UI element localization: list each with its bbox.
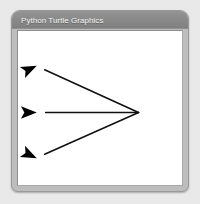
turtle-top-line (45, 70, 139, 113)
turtle-bottom-arrowhead (20, 146, 40, 164)
turtle-arrowheads (20, 60, 40, 164)
turtle-path-lines (45, 70, 139, 154)
turtle-top-arrowhead (20, 60, 40, 78)
window-title-bar[interactable]: Python Turtle Graphics (12, 11, 188, 29)
turtle-bottom-line (45, 112, 139, 154)
turtle-canvas-area[interactable] (17, 30, 183, 186)
window-title-label: Python Turtle Graphics (21, 16, 103, 25)
turtle-graphics-window[interactable]: Python Turtle Graphics (11, 10, 189, 192)
turtle-drawing-canvas (18, 31, 182, 185)
turtle-middle-arrowhead (21, 106, 37, 118)
